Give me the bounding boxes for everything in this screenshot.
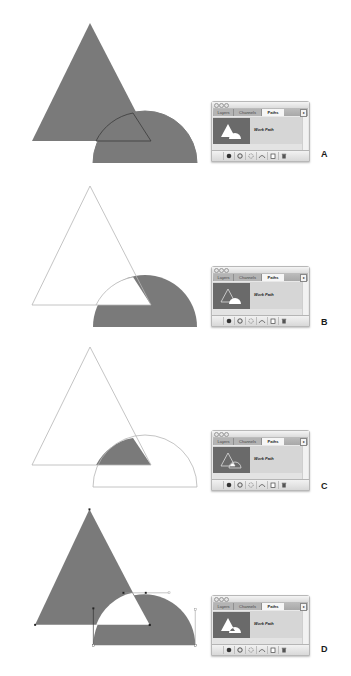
stroke-path-button[interactable]	[234, 317, 245, 325]
fill-path-button[interactable]	[223, 317, 234, 325]
palette-menu-button[interactable]: ▸	[300, 274, 307, 282]
stroke-path-icon	[237, 647, 243, 653]
load-selection-icon	[248, 318, 254, 324]
delete-path-icon	[281, 318, 287, 324]
delete-path-icon	[281, 153, 287, 159]
paths-list: Work Path	[213, 117, 303, 150]
fill-path-icon	[226, 647, 232, 653]
palette-menu-button[interactable]: ▸	[300, 109, 307, 117]
tab-channels[interactable]: Channels	[234, 274, 262, 281]
palette-tabs: Layers Channels Paths ▸	[213, 273, 308, 281]
stroke-path-button[interactable]	[234, 646, 245, 654]
palette-tabs: Layers Channels Paths ▸	[213, 108, 308, 116]
path-thumbnail	[213, 447, 250, 473]
path-name: Work Path	[254, 621, 274, 626]
delete-path-button[interactable]	[278, 646, 289, 654]
path-row-work-path[interactable]: Work Path	[213, 282, 303, 309]
new-path-icon	[270, 318, 276, 324]
palette-tabs: Layers Channels Paths ▸	[213, 602, 308, 610]
path-row-work-path[interactable]: Work Path	[213, 117, 303, 144]
fill-path-icon	[226, 153, 232, 159]
palette-scrollbar[interactable]	[302, 446, 308, 479]
tab-layers[interactable]: Layers	[214, 274, 234, 281]
palette-tabs: Layers Channels Paths ▸	[213, 437, 308, 445]
triangle-right-icon: ▸	[303, 110, 305, 115]
paths-palette: Layers Channels Paths ▸ Work Path	[211, 430, 310, 491]
palette-bottom-bar	[212, 644, 309, 655]
new-path-button[interactable]	[267, 646, 278, 654]
delete-path-button[interactable]	[278, 152, 289, 160]
palette-scrollbar[interactable]	[302, 611, 308, 644]
tab-paths[interactable]: Paths	[262, 438, 284, 445]
shape-subtract-illustration	[0, 164, 210, 329]
make-work-path-icon	[258, 153, 266, 159]
new-path-button[interactable]	[267, 152, 278, 160]
load-selection-button[interactable]	[245, 317, 256, 325]
tab-layers[interactable]: Layers	[214, 603, 234, 610]
delete-path-icon	[281, 647, 287, 653]
paths-list: Work Path	[213, 446, 303, 479]
new-path-button[interactable]	[267, 317, 278, 325]
path-name: Work Path	[254, 127, 274, 132]
path-thumbnail	[213, 118, 250, 144]
figure-label: A	[321, 149, 328, 159]
path-name: Work Path	[254, 456, 274, 461]
triangle-right-icon: ▸	[303, 275, 305, 280]
figure-b: Layers Channels Paths ▸ Work Path B	[0, 164, 351, 329]
make-work-path-button[interactable]	[256, 646, 267, 654]
load-selection-button[interactable]	[245, 152, 256, 160]
triangle-right-icon: ▸	[303, 439, 305, 444]
fill-path-icon	[226, 318, 232, 324]
figure-label: D	[321, 644, 328, 654]
stroke-path-icon	[237, 153, 243, 159]
new-path-icon	[270, 647, 276, 653]
path-name: Work Path	[254, 292, 274, 297]
tab-channels[interactable]: Channels	[234, 438, 262, 445]
tab-channels[interactable]: Channels	[234, 109, 262, 116]
path-row-work-path[interactable]: Work Path	[213, 611, 303, 638]
delete-path-button[interactable]	[278, 317, 289, 325]
make-work-path-button[interactable]	[256, 152, 267, 160]
paths-palette: Layers Channels Paths ▸ Work Path	[211, 101, 310, 162]
path-thumbnail	[213, 612, 250, 638]
tab-layers[interactable]: Layers	[214, 109, 234, 116]
make-work-path-icon	[258, 318, 266, 324]
tab-paths[interactable]: Paths	[262, 603, 284, 610]
figure-a: Layers Channels Paths ▸ Work Path A	[0, 0, 351, 165]
fill-path-button[interactable]	[223, 646, 234, 654]
paths-palette: Layers Channels Paths ▸ Work Path	[211, 266, 310, 327]
palette-menu-button[interactable]: ▸	[300, 438, 307, 446]
stroke-path-button[interactable]	[234, 152, 245, 160]
figure-d: Layers Channels Paths ▸ Work Path D	[0, 488, 351, 653]
load-selection-button[interactable]	[245, 646, 256, 654]
new-path-icon	[270, 153, 276, 159]
palette-scrollbar[interactable]	[302, 282, 308, 315]
shape-exclude-illustration	[0, 488, 210, 653]
tab-channels[interactable]: Channels	[234, 603, 262, 610]
shape-add-illustration	[0, 0, 210, 165]
load-selection-icon	[248, 647, 254, 653]
fill-path-button[interactable]	[223, 152, 234, 160]
make-work-path-icon	[258, 647, 266, 653]
load-selection-icon	[248, 153, 254, 159]
path-row-work-path[interactable]: Work Path	[213, 446, 303, 473]
palette-scrollbar[interactable]	[302, 117, 308, 150]
triangle-right-icon: ▸	[303, 604, 305, 609]
make-work-path-button[interactable]	[256, 317, 267, 325]
palette-menu-button[interactable]: ▸	[300, 603, 307, 611]
path-thumbnail	[213, 283, 250, 309]
tab-paths[interactable]: Paths	[262, 274, 284, 281]
tab-layers[interactable]: Layers	[214, 438, 234, 445]
figure-c: Layers Channels Paths ▸ Work Path C	[0, 325, 351, 490]
tab-paths[interactable]: Paths	[262, 109, 284, 116]
shape-intersect-illustration	[0, 325, 210, 490]
stroke-path-icon	[237, 318, 243, 324]
paths-list: Work Path	[213, 611, 303, 644]
palette-bottom-bar	[212, 150, 309, 161]
paths-list: Work Path	[213, 282, 303, 315]
paths-palette: Layers Channels Paths ▸ Work Path	[211, 595, 310, 656]
